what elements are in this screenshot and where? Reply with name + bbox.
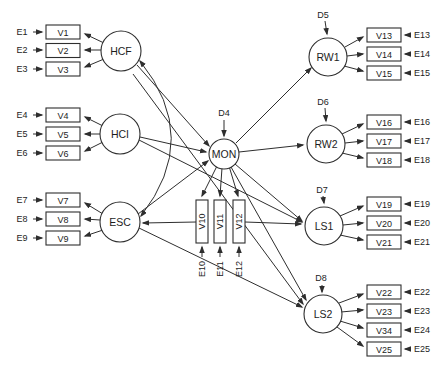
indicator-label-v13: V13 [376, 31, 392, 41]
loading-ls2-v23 [341, 310, 363, 312]
error-label-e6: E6 [16, 148, 27, 158]
group-hcf: E1 E2 E3 V1 V2 V3 HCF [16, 25, 141, 76]
indicator-label-v11: V11 [215, 214, 225, 229]
indicator-label-v14: V14 [376, 50, 392, 60]
loading-rw1-v14 [347, 54, 363, 56]
path-v12-ls1 [245, 222, 301, 224]
disturbance-label-d6: D6 [317, 97, 329, 107]
indicator-label-v19: V19 [376, 200, 392, 210]
error-label-e19: E19 [414, 199, 430, 209]
path-hcf-mon [137, 65, 209, 146]
loading-ls2-v34 [340, 321, 363, 328]
loading-ls2-v25 [337, 327, 363, 346]
factor-label-hci: HCI [111, 128, 129, 140]
factor-label-esc: ESC [109, 216, 131, 228]
error-label-e17: E17 [414, 136, 430, 146]
group-esc: E7 E8 E9 V7 V8 V9 ESC [16, 193, 140, 245]
indicator-label-v1: V1 [57, 28, 68, 38]
diagram-svg: E1 E2 E3 V1 V2 V3 HCF E4 E5 E6 V4 V5 V6 … [0, 0, 448, 377]
disturbance-label-d5: D5 [317, 10, 329, 20]
error-label-e1: E1 [16, 27, 27, 37]
factor-label-rw2: RW2 [314, 138, 337, 150]
group-ls1: D7 LS1 V19 V20 V21 E19 E20 E21 [305, 185, 430, 249]
indicator-label-v34: V34 [376, 326, 392, 336]
error-label-e25: E25 [414, 344, 430, 354]
group-rw2: D6 RW2 V16 V17 V18 E16 E17 E18 [307, 97, 430, 167]
error-label-e4: E4 [16, 110, 27, 120]
loading-rw2-v16 [342, 124, 363, 134]
error-label-e8: E8 [16, 214, 27, 224]
error-label-e11: E11 [215, 261, 225, 276]
indicator-label-v4: V4 [57, 111, 68, 121]
error-label-e15: E15 [414, 68, 430, 78]
indicator-label-v8: V8 [57, 215, 68, 225]
indicator-label-v9: V9 [57, 234, 68, 244]
loading-ls1-v19 [340, 206, 363, 216]
loading-hci-v4 [85, 117, 103, 126]
indicator-label-v15: V15 [376, 69, 392, 79]
loading-ls2-v22 [339, 294, 363, 303]
sem-path-diagram: E1 E2 E3 V1 V2 V3 HCF E4 E5 E6 V4 V5 V6 … [0, 0, 448, 377]
factor-label-mon: MON [212, 148, 237, 160]
loading-ls1-v21 [340, 235, 363, 240]
indicator-label-v7: V7 [57, 196, 68, 206]
disturbance-label-d8: D8 [315, 273, 327, 283]
loading-hcf-v1 [85, 34, 104, 43]
error-label-e16: E16 [414, 117, 430, 127]
error-label-e9: E9 [16, 233, 27, 243]
error-label-e22: E22 [414, 287, 430, 297]
loading-hcf-v3 [85, 59, 104, 67]
indicator-label-v10: V10 [197, 213, 207, 229]
error-label-e23: E23 [414, 306, 430, 316]
indicator-label-v20: V20 [376, 219, 392, 229]
indicator-label-v2: V2 [57, 46, 68, 56]
error-label-e14: E14 [414, 49, 430, 59]
error-label-e3: E3 [16, 64, 27, 74]
loading-esc-v8 [85, 219, 100, 220]
factor-label-ls2: LS2 [314, 308, 333, 320]
path-mon-rw2 [239, 145, 303, 152]
loading-rw2-v17 [345, 141, 363, 143]
path-mon-rw1 [236, 68, 311, 143]
loading-ls1-v20 [343, 223, 363, 225]
path-hci-mon [140, 137, 206, 152]
disturbance-arrow-d5 [325, 21, 327, 34]
group-mon: D4 MON V10 V11 V12 E10 E11 E12 [196, 108, 245, 277]
error-label-e21: E21 [414, 237, 430, 247]
indicator-label-v12: V12 [234, 213, 244, 229]
factor-label-rw1: RW1 [316, 51, 339, 63]
loading-hci-v6 [85, 142, 103, 151]
indicator-label-v23: V23 [376, 307, 392, 317]
error-label-e10: E10 [197, 261, 207, 277]
disturbance-label-d7: D7 [316, 185, 328, 195]
group-hci: E4 E5 E6 V4 V5 V6 HCI [16, 108, 140, 160]
group-rw1: D5 RW1 V13 V14 V15 E13 E14 E15 [309, 10, 430, 80]
factor-label-hcf: HCF [110, 45, 132, 57]
error-label-e7: E7 [16, 195, 27, 205]
indicator-label-v3: V3 [57, 65, 68, 75]
path-v10-esc [143, 222, 196, 223]
error-label-e2: E2 [16, 45, 27, 55]
disturbance-label-d4: D4 [218, 108, 230, 118]
loading-rw1-v13 [345, 37, 363, 47]
factor-label-ls1: LS1 [315, 220, 334, 232]
indicator-label-v22: V22 [376, 288, 392, 298]
indicator-label-v18: V18 [376, 156, 392, 166]
indicator-label-v16: V16 [376, 118, 392, 128]
error-label-e20: E20 [414, 218, 430, 228]
disturbance-arrow-d7 [323, 196, 324, 203]
group-ls2: D8 LS2 V22 V23 V34 V25 E22 E23 E24 E25 [304, 273, 430, 356]
error-label-e24: E24 [414, 325, 430, 335]
loading-rw1-v15 [344, 66, 363, 71]
indicator-label-v5: V5 [57, 130, 68, 140]
indicator-label-v17: V17 [376, 137, 392, 147]
indicator-label-v6: V6 [57, 149, 68, 159]
disturbance-arrow-d6 [325, 108, 326, 121]
error-label-e5: E5 [16, 129, 27, 139]
error-label-e12: E12 [234, 261, 244, 277]
error-label-e18: E18 [414, 155, 430, 165]
indicator-label-v21: V21 [376, 238, 392, 248]
loading-esc-v7 [85, 203, 103, 214]
loading-esc-v9 [85, 230, 103, 236]
indicator-label-v25: V25 [376, 345, 392, 355]
